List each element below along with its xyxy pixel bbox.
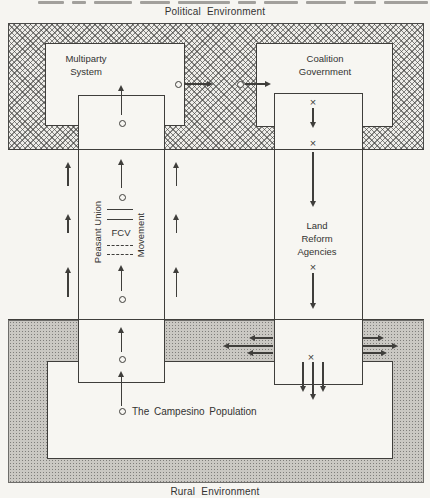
peasant-union-vertical-label: Peasant Union: [92, 192, 104, 272]
cropped-text-line: [38, 0, 428, 5]
down-arrow: [312, 362, 313, 394]
movement-line: [107, 209, 133, 210]
up-arrow: [67, 219, 68, 233]
x-marker: ×: [310, 138, 316, 149]
right-arrow: [245, 83, 265, 84]
movement-dashed-line: [107, 245, 133, 246]
circle-marker: [119, 356, 126, 363]
down-arrow: [322, 362, 323, 386]
fcv-label: FCV: [106, 226, 136, 239]
up-arrow: [121, 90, 122, 115]
up-arrow: [121, 164, 122, 188]
circle-marker: [237, 81, 244, 88]
political-band-bottom-line: [8, 149, 424, 150]
rural-environment-caption: Rural Environment: [0, 486, 430, 497]
down-arrow: [312, 273, 313, 303]
down-arrow: [312, 152, 313, 201]
x-marker: ×: [310, 97, 316, 108]
up-arrow: [121, 332, 122, 352]
up-arrow: [67, 167, 68, 186]
right-arrow: [363, 352, 381, 353]
left-arrow: [228, 345, 273, 346]
right-arrow: [184, 83, 207, 84]
down-arrow: [302, 362, 303, 386]
right-arrow: [363, 337, 378, 338]
circle-marker: [119, 194, 126, 201]
down-arrow: [312, 108, 313, 122]
circle-marker: [119, 296, 126, 303]
circle-marker: [119, 120, 126, 127]
x-marker: ×: [308, 352, 314, 363]
movement-line: [107, 219, 133, 220]
right-arrow: [363, 345, 392, 346]
up-arrow: [176, 167, 177, 186]
up-arrow: [67, 272, 68, 297]
up-arrow: [121, 376, 122, 406]
left-arrow: [252, 352, 273, 353]
land-reform-agencies-label: Land Reform Agencies: [291, 219, 343, 258]
movement-vertical-label: Movement: [135, 195, 147, 275]
circle-marker: [119, 408, 126, 415]
circle-marker: [175, 81, 182, 88]
up-arrow: [121, 270, 122, 291]
multiparty-system-label: Multiparty System: [50, 52, 122, 78]
up-arrow: [176, 272, 177, 297]
political-environment-caption: Political Environment: [0, 6, 430, 17]
rural-band-top-line: [8, 319, 424, 320]
campesino-population-label: The Campesino Population: [132, 406, 257, 417]
coalition-government-label: Coalition Government: [282, 52, 368, 78]
left-arrow: [254, 337, 273, 338]
x-marker: ×: [310, 262, 316, 273]
figure-page: { "captions": { "political": "Political …: [0, 0, 430, 498]
up-arrow: [176, 219, 177, 233]
movement-dashed-line: [107, 254, 133, 255]
